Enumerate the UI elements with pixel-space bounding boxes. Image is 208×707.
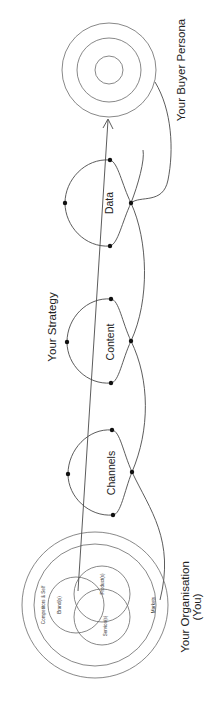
loop-channels-outline [68,430,132,515]
loop-content-dot-bottom [109,381,113,385]
loop-data-dot-bottom [108,244,112,248]
target-outer-ring [62,23,156,117]
loop-channels-label: Channels [105,451,117,495]
competitors-ring [34,544,156,666]
strategy-diagram: Data Content Channels Competitors & Self… [0,0,208,707]
markets-label: Markets [151,596,156,613]
loop-content-dot-tip [129,339,133,343]
loop-data-label: Data [103,192,115,214]
target-middle-ring [77,38,141,102]
connector-target-data [131,150,143,203]
organisation: Competitors & Self Markets Brand(s) Prod… [22,532,168,678]
loop-content-dot-top [109,297,113,301]
brands-label: Brand(s) [57,596,62,614]
loop-channels-dot-top [110,428,114,432]
loop-channels-dot-bottom [111,513,115,517]
strategy-label: Your Strategy [46,292,58,362]
buyer-persona-target [62,23,156,117]
venn-services-circle [74,589,130,645]
organisation-sublabel: (You) [191,593,203,620]
target-inner-ring [95,56,123,84]
loop-data-dot-left [63,201,67,205]
products-label: Product(s) [100,573,105,595]
loop-channels: Channels [66,428,134,517]
loop-data-dot-top [108,158,112,162]
loop-data-dot-tip [129,201,133,205]
loop-content-dot-left [65,340,69,344]
buyer-persona-label: Your Buyer Persona [175,18,187,121]
loop-content: Content [65,297,133,385]
loop-data-outline [65,160,131,246]
loop-data: Data [63,158,133,248]
connector-content-channels [131,341,145,472]
connector-data-content [131,203,145,341]
loop-channels-dot-tip [130,470,134,474]
loop-channels-dot-left [66,472,70,476]
organisation-label: Your Organisation [179,561,191,653]
services-label: Service(s) [103,615,108,636]
loop-content-label: Content [104,324,116,361]
connector-channels-organisation [132,472,165,600]
loop-content-outline [67,299,131,383]
competitors-label: Competitors & Self [41,585,46,624]
